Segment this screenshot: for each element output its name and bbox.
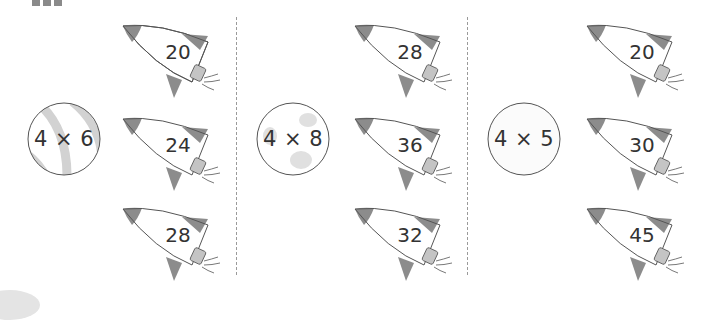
rocket-answer: 24 [158, 133, 198, 157]
rocket-answer: 20 [622, 40, 662, 64]
corner-blob-decoration [0, 290, 40, 320]
rocket-answer: 28 [158, 223, 198, 247]
planet-expression: 4 × 5 [487, 102, 561, 176]
planet-expression: 4 × 6 [27, 102, 101, 176]
corner-decoration [32, 0, 62, 6]
rocket-answer-g1-r1[interactable]: 20 [120, 22, 224, 104]
dashed-divider-2 [467, 17, 468, 275]
rocket-answer-g2-r3[interactable]: 32 [352, 205, 456, 287]
rocket-answer: 32 [390, 223, 430, 247]
rocket-answer-g2-r2[interactable]: 36 [352, 115, 456, 197]
planet-group-1[interactable]: 4 × 6 [27, 102, 101, 176]
mark [32, 0, 40, 6]
rocket-answer-g2-r1[interactable]: 28 [352, 22, 456, 104]
rocket-answer-g3-r1[interactable]: 20 [584, 22, 688, 104]
planet-expression: 4 × 8 [256, 102, 330, 176]
rocket-answer: 28 [390, 40, 430, 64]
rocket-answer-g3-r2[interactable]: 30 [584, 115, 688, 197]
mark [54, 0, 62, 6]
mark [43, 0, 51, 6]
rocket-answer: 30 [622, 133, 662, 157]
rocket-answer-g1-r2[interactable]: 24 [120, 115, 224, 197]
rocket-answer: 36 [390, 133, 430, 157]
planet-group-2[interactable]: 4 × 8 [256, 102, 330, 176]
rocket-answer: 20 [158, 40, 198, 64]
planet-group-3[interactable]: 4 × 5 [487, 102, 561, 176]
dashed-divider-1 [236, 17, 237, 275]
rocket-answer-g3-r3[interactable]: 45 [584, 205, 688, 287]
rocket-answer-g1-r3[interactable]: 28 [120, 205, 224, 287]
rocket-answer: 45 [622, 223, 662, 247]
